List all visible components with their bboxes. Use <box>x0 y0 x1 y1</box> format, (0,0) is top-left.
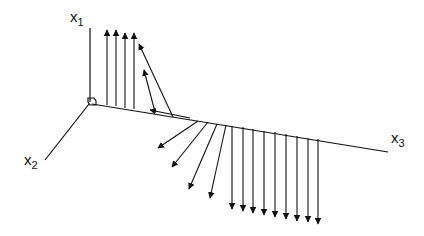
x3-axis <box>92 104 388 152</box>
vector-diag-1 <box>158 121 198 148</box>
x3-label: x3 <box>391 129 405 149</box>
vector-diag-3 <box>189 124 217 189</box>
x1-label: x1 <box>70 8 84 28</box>
vector-tilted-2 <box>144 70 155 112</box>
vector-tilted-1 <box>139 44 173 117</box>
axis-labels: x1 x2 x3 <box>24 8 405 171</box>
diagonal-down-vectors <box>158 121 226 198</box>
x2-label: x2 <box>24 151 38 171</box>
x2-axis <box>45 104 89 160</box>
vector-diagram: x1 x2 x3 <box>0 0 424 236</box>
upward-vectors <box>107 30 190 118</box>
vector-diag-2 <box>172 122 208 167</box>
axes <box>45 28 388 160</box>
vertical-down-vectors <box>232 126 318 224</box>
